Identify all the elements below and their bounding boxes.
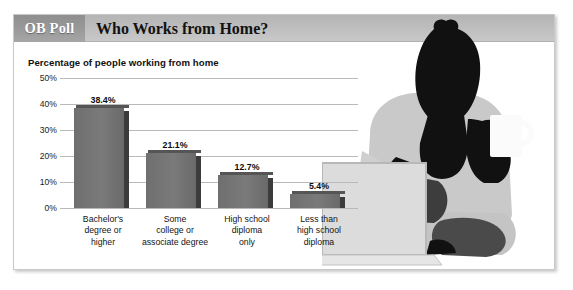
bar-top-less-than-hs xyxy=(292,191,345,194)
x-label-line: college or xyxy=(156,225,194,235)
y-tick-30: 30% xyxy=(40,125,57,135)
bar-value-less-than-hs: 5.4% xyxy=(290,181,348,191)
bar-high-school xyxy=(218,175,268,208)
bar-chart: 50% 40% 30% 20% 10% 0% 38.4% 21.1% xyxy=(28,78,358,263)
y-axis: 50% 40% 30% 20% 10% 0% xyxy=(28,78,60,208)
x-label-high-school: High school diploma only xyxy=(211,214,283,248)
x-label-line: only xyxy=(239,237,255,247)
gridline-0 xyxy=(60,208,358,209)
bar-side-bachelors xyxy=(124,111,129,208)
x-label-line: degree or xyxy=(84,225,121,235)
bar-top-high-school xyxy=(220,172,273,175)
bar-side-less-than-hs xyxy=(340,197,345,208)
x-label-line: diploma xyxy=(304,237,334,247)
mug-body xyxy=(490,115,522,157)
y-tick-20: 20% xyxy=(40,151,57,161)
x-label-bachelors: Bachelor's degree or higher xyxy=(67,214,139,248)
ob-poll-badge: OB Poll xyxy=(14,15,85,42)
y-tick-10: 10% xyxy=(40,177,57,187)
bar-side-high-school xyxy=(268,178,273,208)
bar-value-some-college: 21.1% xyxy=(146,140,204,150)
x-label-less-than-hs: Less than high school diploma xyxy=(283,214,355,248)
bar-top-bachelors xyxy=(76,105,129,108)
poll-panel: OB Poll Who Works from Home? Percentage … xyxy=(13,14,555,270)
page-title: Who Works from Home? xyxy=(96,15,268,42)
x-label-line: High school xyxy=(224,214,269,224)
x-label-some-college: Some college or associate degree xyxy=(139,214,211,248)
bar-bachelors xyxy=(74,108,124,208)
x-axis-labels: Bachelor's degree or higher Some college… xyxy=(60,214,358,262)
x-label-line: higher xyxy=(91,237,115,247)
x-label-line: Less than xyxy=(300,214,338,224)
bar-less-than-hs xyxy=(290,194,340,208)
bar-value-high-school: 12.7% xyxy=(218,162,276,172)
bar-top-some-college xyxy=(148,150,201,153)
x-label-line: Bachelor's xyxy=(83,214,123,224)
mug-handle xyxy=(522,123,531,143)
bar-side-some-college xyxy=(196,156,201,208)
x-label-line: Some xyxy=(164,214,187,224)
y-tick-0: 0% xyxy=(45,203,57,213)
chart-subtitle: Percentage of people working from home xyxy=(28,57,219,68)
x-label-line: associate degree xyxy=(142,237,208,247)
x-label-line: high school xyxy=(297,225,341,235)
x-label-line: diploma xyxy=(232,225,262,235)
y-tick-50: 50% xyxy=(40,73,57,83)
bars-container: 38.4% 21.1% 12.7% 5.4% xyxy=(60,78,358,208)
bar-value-bachelors: 38.4% xyxy=(74,95,132,105)
bar-some-college xyxy=(146,153,196,208)
y-tick-40: 40% xyxy=(40,99,57,109)
source-caption xyxy=(13,281,561,289)
